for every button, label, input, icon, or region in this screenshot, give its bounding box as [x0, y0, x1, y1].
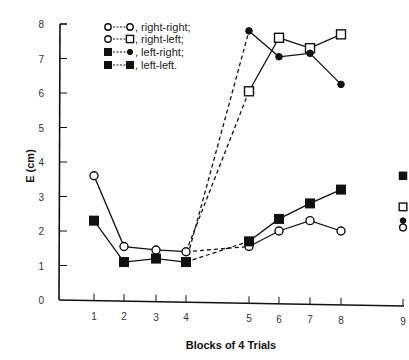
filled-square-marker: [274, 214, 284, 224]
filled-circle-marker: [276, 53, 283, 60]
filled-circle-marker: [127, 49, 132, 54]
x-tick-label: 5: [246, 313, 252, 324]
transfer-line-right-right: [186, 247, 249, 252]
y-tick-label: 7: [38, 54, 44, 65]
y-tick-label: 6: [38, 88, 44, 99]
legend-label: , left-right;: [135, 46, 184, 58]
filled-circle-marker: [246, 28, 253, 35]
open-square-marker: [126, 35, 133, 42]
filled-square-marker: [104, 48, 112, 56]
legend-item: , left-right;: [104, 46, 184, 58]
x-tick-label: 6: [276, 314, 282, 325]
legend-item: , left-left.: [104, 59, 177, 71]
legend-label: , right-left;: [135, 33, 184, 45]
filled-square-marker: [126, 61, 134, 69]
x-tick-label: 3: [153, 312, 159, 323]
y-tick-label: 0: [38, 295, 44, 306]
y-tick-label: 4: [38, 157, 44, 168]
filled-circle-marker: [307, 50, 314, 57]
series-line-left-left: [249, 190, 341, 242]
filled-square-marker: [244, 236, 254, 246]
filled-square-marker: [305, 198, 315, 208]
transfer-dashed-lines: [186, 31, 249, 262]
open-square-marker: [399, 203, 407, 211]
x-tick-label: 4: [183, 312, 189, 323]
x-tick-label: 8: [338, 315, 344, 326]
series-line-right-right: [249, 221, 341, 247]
filled-square-marker: [119, 257, 129, 267]
x-axis-line: [59, 300, 404, 306]
filled-square-marker: [151, 254, 161, 264]
line-chart: 012345678123456789 , right-right;, right…: [0, 0, 409, 360]
transfer-line-left-left: [186, 241, 249, 262]
filled-square-marker: [104, 61, 112, 69]
open-circle-marker: [306, 217, 314, 225]
y-tick-label: 5: [38, 123, 44, 134]
filled-square-marker: [336, 185, 346, 195]
x-tick-label: 9: [400, 316, 406, 327]
open-square-marker: [275, 33, 284, 42]
filled-circle-marker: [400, 218, 406, 224]
legend-label: , left-left.: [135, 59, 177, 71]
x-tick-label: 2: [121, 311, 127, 322]
open-circle-marker: [90, 172, 98, 180]
open-square-marker: [337, 30, 346, 39]
series-line-phase1: [94, 221, 186, 262]
filled-square-marker: [399, 172, 408, 181]
y-tick-label: 3: [38, 192, 44, 203]
open-circle-marker: [337, 227, 345, 235]
y-axis-line: [59, 24, 60, 300]
open-circle-marker: [182, 248, 190, 256]
filled-square-marker: [181, 257, 191, 267]
filled-circle-marker: [338, 81, 345, 88]
legend-item: , right-right;: [105, 21, 191, 33]
legend: , right-right;, right-left;, left-right;…: [104, 21, 191, 71]
y-tick-label: 1: [38, 261, 44, 272]
open-circle-marker: [275, 227, 283, 235]
open-circle-marker: [152, 246, 160, 254]
open-circle-marker: [105, 24, 111, 30]
y-tick-label: 8: [38, 19, 44, 30]
legend-label: , right-right;: [135, 21, 191, 33]
x-tick-label: 7: [307, 314, 313, 325]
y-axis-title: E (cm): [24, 149, 36, 183]
open-square-marker: [245, 87, 254, 96]
y-tick-label: 2: [38, 226, 44, 237]
open-circle-marker: [127, 24, 133, 30]
transfer-line-left-right: [186, 31, 249, 262]
x-tick-label: 1: [91, 311, 97, 322]
open-circle-marker: [105, 36, 111, 42]
x-axis-title: Blocks of 4 Trials: [186, 339, 276, 351]
series-line-left-right: [249, 31, 341, 84]
open-circle-marker: [120, 243, 128, 251]
open-circle-marker: [400, 224, 407, 231]
legend-item: , right-left;: [105, 33, 184, 45]
filled-square-marker: [89, 216, 99, 226]
